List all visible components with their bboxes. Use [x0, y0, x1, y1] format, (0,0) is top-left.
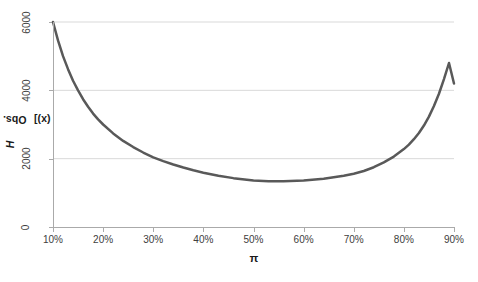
x-tick-label: 80%: [381, 234, 427, 245]
x-tick-label: 50%: [231, 234, 277, 245]
y-axis-title-prefix: Obs. Info [-: [0, 114, 26, 126]
x-tick-mark: [404, 228, 405, 232]
x-tick-mark: [454, 228, 455, 232]
x-tick-mark: [53, 228, 54, 232]
y-tick-label: 0: [6, 220, 46, 234]
x-tick-label: 20%: [80, 234, 126, 245]
x-axis-title: π: [53, 252, 455, 264]
x-tick-label: 60%: [281, 234, 327, 245]
series-line: [53, 22, 454, 181]
chart-container: Obs. Info [-H(x)] 0200040006000 10%20%30…: [0, 0, 478, 282]
x-tick-label: 30%: [130, 234, 176, 245]
y-tick-label-text: 6000: [21, 11, 32, 33]
y-tick-label-text: 0: [21, 224, 32, 230]
x-tick-mark: [354, 228, 355, 232]
y-axis-title-suffix: (x)]: [0, 114, 50, 126]
y-tick-label-text: 2000: [21, 148, 32, 170]
y-tick-label: 2000: [6, 152, 46, 166]
y-axis-title-italic: H: [4, 141, 16, 149]
x-tick-mark: [304, 228, 305, 232]
x-tick-mark: [203, 228, 204, 232]
y-tick-label: 4000: [6, 83, 46, 97]
x-tick-mark: [103, 228, 104, 232]
x-tick-label: 90%: [431, 234, 477, 245]
x-tick-label: 40%: [180, 234, 226, 245]
x-tick-mark: [254, 228, 255, 232]
x-tick-label: 70%: [331, 234, 377, 245]
y-axis-title: Obs. Info [-H(x)]: [0, 0, 20, 240]
y-tick-label: 6000: [6, 15, 46, 29]
plot-area: [53, 22, 454, 227]
data-curve: [53, 22, 454, 227]
x-tick-mark: [153, 228, 154, 232]
y-tick-label-text: 4000: [21, 79, 32, 101]
x-tick-label: 10%: [30, 234, 76, 245]
y-axis-line: [53, 22, 54, 228]
